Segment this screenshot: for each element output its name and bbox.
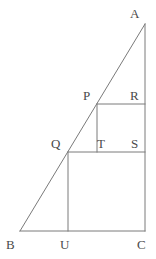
vertex-label-Q: Q xyxy=(51,137,60,150)
vertex-label-A: A xyxy=(130,7,139,20)
hypotenuse-AB xyxy=(20,24,145,231)
vertex-label-T: T xyxy=(97,137,105,150)
vertex-label-S: S xyxy=(131,137,138,150)
geometry-figure: A B C U Q S T P R xyxy=(0,0,156,259)
figure-canvas xyxy=(0,0,156,259)
vertex-label-U: U xyxy=(60,238,69,251)
vertex-label-R: R xyxy=(130,89,139,102)
vertex-label-C: C xyxy=(137,238,146,251)
vertex-label-B: B xyxy=(6,238,15,251)
vertex-label-P: P xyxy=(83,89,90,102)
